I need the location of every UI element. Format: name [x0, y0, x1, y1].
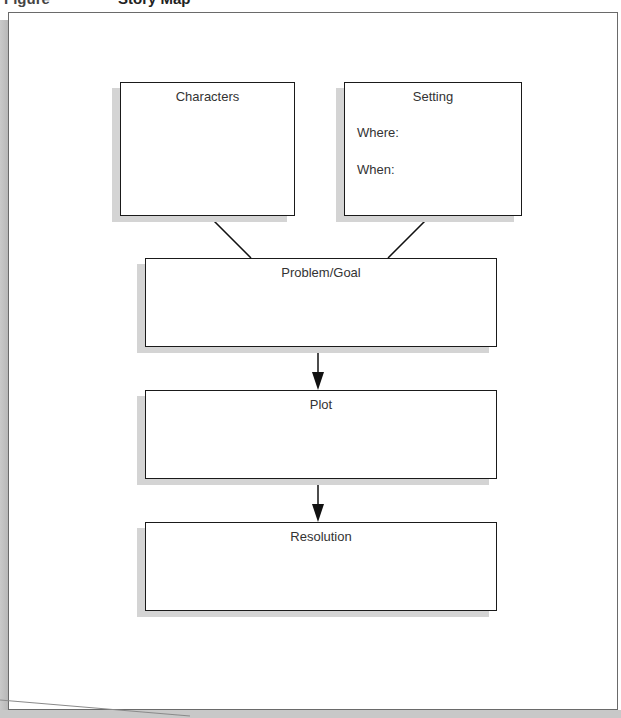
characters-connector — [208, 215, 251, 258]
setting-title: Setting — [345, 89, 521, 104]
resolution-box: Resolution — [145, 522, 497, 611]
arrowhead-icon — [312, 504, 324, 522]
problem-goal-title: Problem/Goal — [146, 265, 496, 280]
plot-box: Plot — [145, 390, 497, 479]
characters-box: Characters — [120, 82, 295, 216]
characters-title: Characters — [121, 89, 294, 104]
setting-box: Setting Where: When: — [344, 82, 522, 216]
where-label: Where: — [357, 125, 399, 140]
page-curl-line — [0, 700, 190, 716]
when-label: When: — [357, 162, 395, 177]
setting-connector — [388, 215, 431, 258]
resolution-title: Resolution — [146, 529, 496, 544]
arrowhead-icon — [312, 372, 324, 390]
plot-title: Plot — [146, 397, 496, 412]
problem-goal-box: Problem/Goal — [145, 258, 497, 347]
